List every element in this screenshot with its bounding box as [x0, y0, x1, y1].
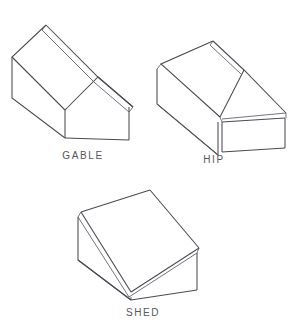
hip-caption: HIP [203, 154, 224, 165]
figure-canvas: GABLE HIP [0, 0, 294, 325]
shed-diagram: SHED [78, 190, 199, 318]
hip-wall-front-face [222, 118, 285, 152]
hip-diagram: HIP [157, 41, 286, 165]
shed-caption: SHED [126, 307, 160, 318]
gable-wall-front-face [65, 107, 129, 140]
gable-diagram: GABLE [12, 25, 133, 161]
roof-types-diagram: GABLE HIP [0, 0, 294, 325]
gable-caption: GABLE [62, 150, 103, 161]
